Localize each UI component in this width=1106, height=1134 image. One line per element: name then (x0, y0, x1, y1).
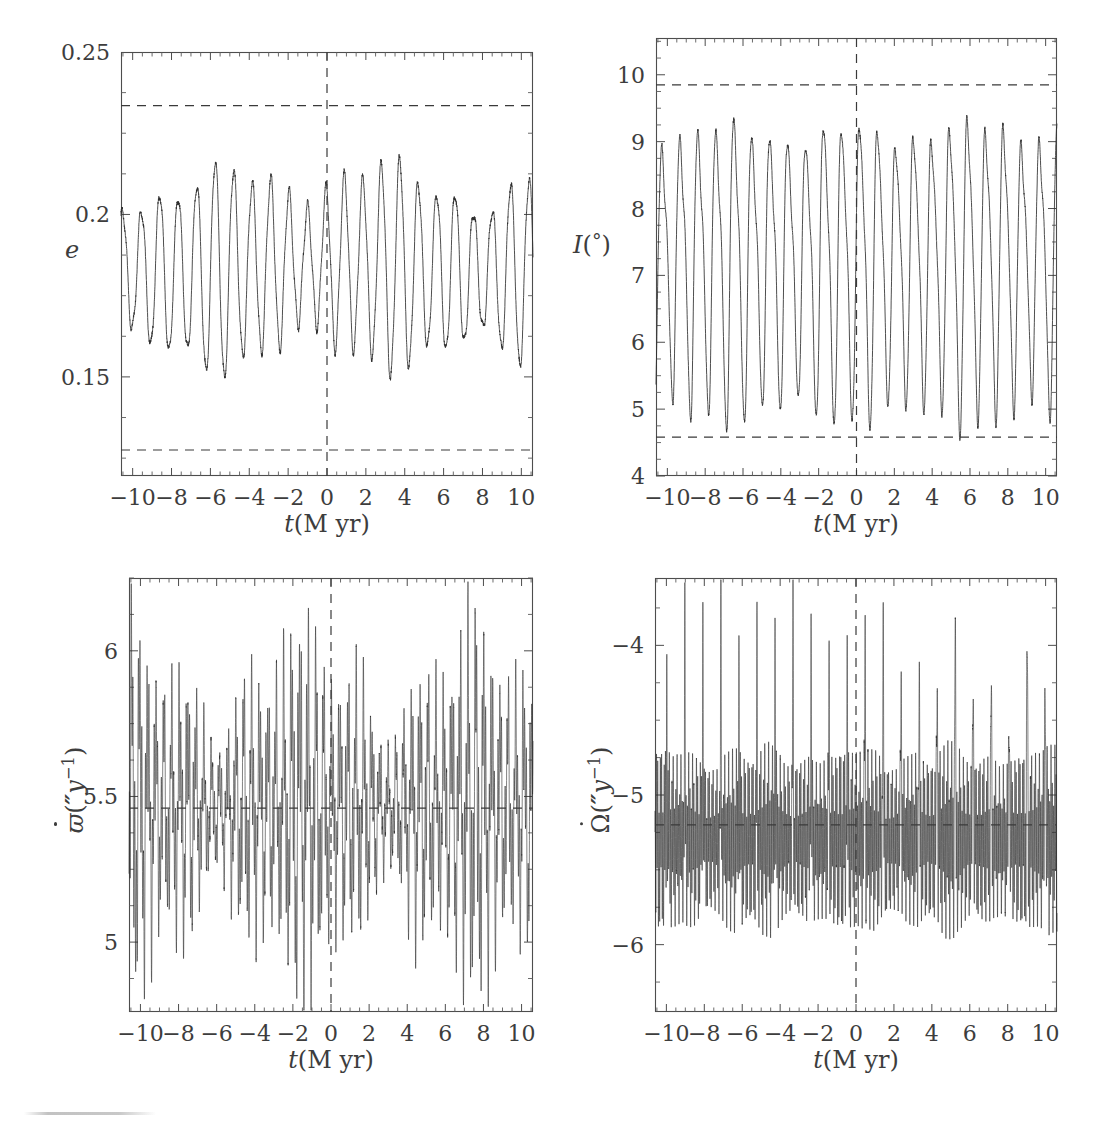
panel-inclination (656, 38, 1057, 476)
x-tick-label-eccentricity: −6 (194, 485, 226, 510)
y-axis-label-node-rate: Ω(″y−1) (585, 747, 615, 834)
y-tick-label-pericenter-rate: 5.5 (83, 784, 118, 809)
x-tick-label-node-rate: 10 (1032, 1021, 1060, 1046)
x-tick-label-node-rate: −10 (643, 1021, 689, 1046)
x-tick-label-node-rate: 2 (887, 1021, 901, 1046)
x-tick-label-pericenter-rate: −8 (162, 1021, 194, 1046)
x-tick-label-inclination: −2 (802, 485, 834, 510)
x-tick-label-inclination: −6 (727, 485, 759, 510)
x-tick-label-node-rate: −2 (802, 1021, 834, 1046)
x-tick-label-pericenter-rate: −4 (239, 1021, 271, 1046)
x-tick-label-pericenter-rate: 2 (362, 1021, 376, 1046)
x-tick-label-pericenter-rate: 4 (400, 1021, 414, 1046)
x-tick-label-inclination: 0 (850, 485, 864, 510)
y-tick-label-inclination: 9 (631, 129, 645, 154)
x-tick-label-eccentricity: 0 (320, 485, 334, 510)
x-tick-label-inclination: 2 (887, 485, 901, 510)
y-tick-label-inclination: 7 (631, 263, 645, 288)
x-tick-label-node-rate: 4 (925, 1021, 939, 1046)
x-tick-label-pericenter-rate: −2 (277, 1021, 309, 1046)
x-tick-label-pericenter-rate: 0 (324, 1021, 338, 1046)
x-tick-label-eccentricity: 4 (398, 485, 412, 510)
x-axis-label-eccentricity: t(M yr) (284, 510, 370, 538)
x-axis-label-pericenter-rate: t(M yr) (288, 1046, 374, 1074)
figure-orbital-elements: e t(M yr) I(°) t(M yr) ϖ(″y−1) t(M yr) Ω… (0, 0, 1106, 1134)
x-tick-label-eccentricity: 10 (507, 485, 535, 510)
x-tick-label-node-rate: 8 (1001, 1021, 1015, 1046)
x-tick-label-inclination: 6 (963, 485, 977, 510)
x-tick-label-pericenter-rate: −10 (117, 1021, 163, 1046)
y-tick-label-inclination: 6 (631, 330, 645, 355)
y-tick-label-pericenter-rate: 5 (104, 930, 118, 955)
x-tick-label-eccentricity: 2 (359, 485, 373, 510)
y-tick-label-inclination: 4 (631, 464, 645, 489)
scan-artifact (24, 1112, 156, 1115)
x-tick-label-eccentricity: −4 (233, 485, 265, 510)
panel-pericenter-rate (129, 578, 533, 1012)
x-tick-label-node-rate: −6 (726, 1021, 758, 1046)
x-tick-label-node-rate: −4 (764, 1021, 796, 1046)
y-tick-label-node-rate: −4 (612, 633, 644, 658)
x-tick-label-inclination: −4 (765, 485, 797, 510)
node-rate-plot (655, 578, 1057, 1012)
y-tick-label-inclination: 8 (631, 196, 645, 221)
panel-node-rate (655, 578, 1057, 1012)
x-tick-label-eccentricity: 8 (475, 485, 489, 510)
inclination-plot (656, 38, 1057, 476)
x-tick-label-eccentricity: −8 (155, 485, 187, 510)
y-axis-label-inclination: I(°) (573, 229, 611, 260)
panel-eccentricity (121, 52, 533, 476)
x-tick-label-eccentricity: 6 (437, 485, 451, 510)
x-tick-label-inclination: −10 (644, 485, 690, 510)
x-axis-label-node-rate: t(M yr) (813, 1046, 899, 1074)
y-tick-label-eccentricity: 0.2 (75, 202, 110, 227)
x-tick-label-eccentricity: −10 (109, 485, 155, 510)
x-axis-label-inclination: t(M yr) (813, 510, 899, 538)
y-tick-label-inclination: 5 (631, 397, 645, 422)
x-tick-label-inclination: −8 (689, 485, 721, 510)
x-tick-label-pericenter-rate: 8 (476, 1021, 490, 1046)
y-tick-label-eccentricity: 0.25 (61, 40, 110, 65)
x-tick-label-inclination: 10 (1032, 485, 1060, 510)
y-tick-label-node-rate: −5 (612, 783, 644, 808)
x-tick-label-pericenter-rate: −6 (200, 1021, 232, 1046)
y-tick-label-inclination: 10 (617, 62, 645, 87)
y-tick-label-eccentricity: 0.15 (61, 364, 110, 389)
x-tick-label-pericenter-rate: 6 (438, 1021, 452, 1046)
y-axis-label-eccentricity: e (65, 236, 79, 264)
x-tick-label-inclination: 8 (1001, 485, 1015, 510)
x-tick-label-inclination: 4 (925, 485, 939, 510)
x-tick-label-node-rate: 6 (963, 1021, 977, 1046)
x-tick-label-eccentricity: −2 (272, 485, 304, 510)
x-tick-label-node-rate: 0 (849, 1021, 863, 1046)
pericenter-rate-plot (129, 578, 533, 1012)
y-tick-label-pericenter-rate: 6 (104, 638, 118, 663)
eccentricity-plot (121, 52, 533, 476)
x-tick-label-pericenter-rate: 10 (508, 1021, 536, 1046)
x-tick-label-node-rate: −8 (688, 1021, 720, 1046)
y-tick-label-node-rate: −6 (612, 932, 644, 957)
